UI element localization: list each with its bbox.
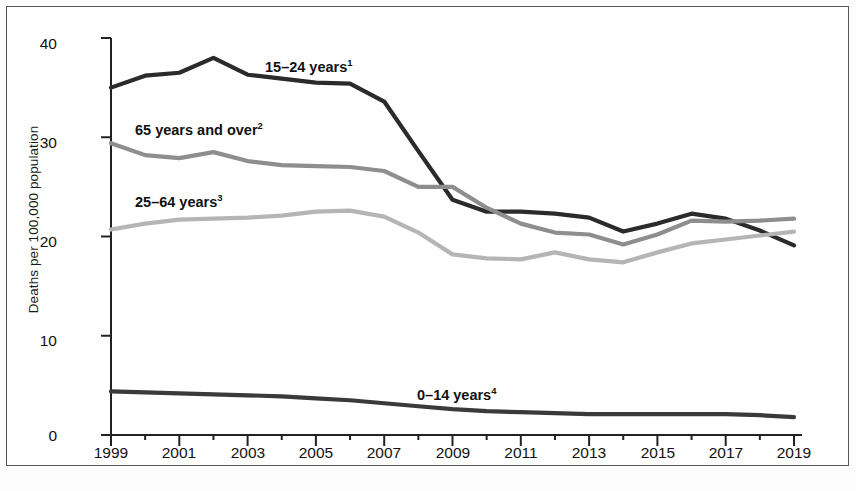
plot-area — [7, 7, 850, 467]
series-line-0-14-years — [111, 391, 794, 417]
series-lines-group — [111, 58, 794, 417]
series-line-25-64-years — [111, 211, 794, 263]
chart-frame: Deaths per 100,000 population 40 30 20 1… — [6, 6, 849, 466]
axis-spines — [111, 38, 802, 435]
series-line-65-years-and-over — [111, 143, 794, 244]
figure-container: Deaths per 100,000 population 40 30 20 1… — [0, 0, 856, 491]
